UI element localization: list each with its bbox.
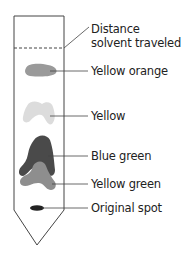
label-solvent-front-line2: solvent traveled [91, 36, 181, 50]
label-solvent-front-line1: Distance [91, 22, 140, 36]
label-original-spot: Original spot [91, 201, 162, 215]
original-spot [30, 205, 44, 211]
label-blue-green: Blue green [91, 149, 151, 163]
label-yellow-orange: Yellow orange [91, 64, 168, 78]
leader-solvent-front [64, 27, 89, 48]
label-yellow-green: Yellow green [91, 177, 161, 191]
label-yellow: Yellow [91, 109, 125, 123]
